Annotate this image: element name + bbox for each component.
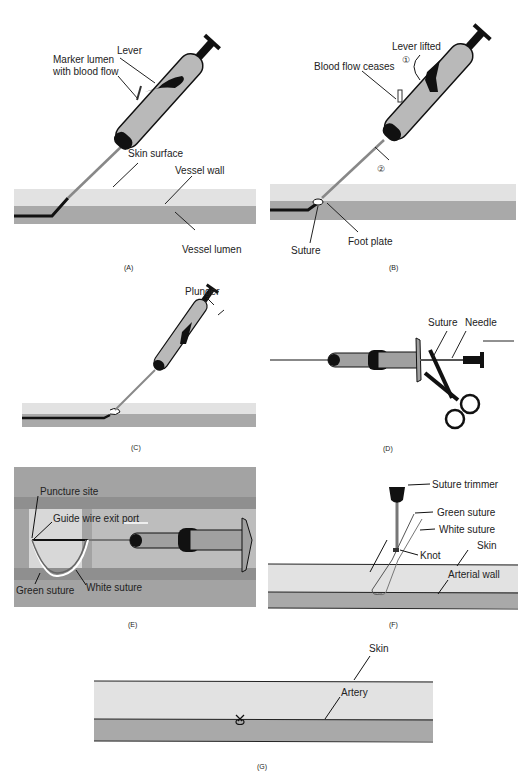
panel-d: Suture Needle (D) <box>270 317 514 453</box>
label-white-suture: White suture <box>439 524 496 535</box>
caption-c: (C) <box>131 444 141 452</box>
rotation-arrow <box>414 55 420 80</box>
label-puncture-site: Puncture site <box>40 486 99 497</box>
plunger <box>463 356 481 364</box>
label-white-suture: White suture <box>86 582 143 593</box>
label-lever: Lever <box>117 45 143 56</box>
label-artery: Artery <box>341 687 368 698</box>
suture-loop <box>313 199 323 205</box>
label-guide-wire-exit-port: Guide wire exit port <box>53 513 139 524</box>
label-suture: Suture <box>291 245 321 256</box>
arterial-layer <box>268 592 518 608</box>
vessel-lumen-layer <box>22 414 256 427</box>
label-skin: Skin <box>477 540 496 551</box>
panel-g: Skin Artery (G) <box>94 643 433 771</box>
label-vessel-lumen: Vessel lumen <box>182 244 241 255</box>
label-suture-trimmer: Suture trimmer <box>432 479 499 490</box>
label-foot-plate: Foot plate <box>348 236 393 247</box>
label-arterial-wall: Arterial wall <box>448 569 500 580</box>
step-1-marker: ① <box>402 55 410 65</box>
panel-e: Puncture site Guide wire exit port Green… <box>14 467 256 629</box>
skin-layer <box>270 184 516 201</box>
marker-port <box>398 90 402 102</box>
caption-g: (G) <box>257 763 267 771</box>
label-skin: Skin <box>369 643 388 654</box>
label-vessel-wall: Vessel wall <box>175 165 224 176</box>
label-knot: Knot <box>420 550 441 561</box>
panel-b: Lever lifted ① Blood flow ceases ② Sutur… <box>270 23 516 272</box>
label-green-suture: Green suture <box>437 507 496 518</box>
label-marker-lumen-1: Marker lumen <box>53 54 114 65</box>
panel-c: Plunger (C) <box>22 283 256 452</box>
suture-trimmer-head <box>389 487 405 503</box>
skin-layer <box>14 189 256 206</box>
skin-layer <box>22 403 256 414</box>
panel-a: Lever Marker lumen with blood flow Skin … <box>14 33 256 272</box>
caption-d: (D) <box>383 445 393 453</box>
label-lever-lifted: Lever lifted <box>392 41 441 52</box>
label-skin-surface: Skin surface <box>128 148 183 159</box>
knot <box>393 548 399 552</box>
caption-f: (F) <box>389 621 398 629</box>
caption-b: (B) <box>389 264 398 272</box>
skin-layer <box>94 681 433 719</box>
closure-device-diagram: Lever Marker lumen with blood flow Skin … <box>0 0 529 784</box>
step-2-marker: ② <box>377 164 385 174</box>
panel-f: Suture trimmer Green suture White suture… <box>268 479 518 629</box>
label-green-suture: Green suture <box>16 585 75 596</box>
label-marker-lumen-2: with blood flow <box>52 66 119 77</box>
label-needle: Needle <box>465 317 497 328</box>
label-blood-flow-ceases: Blood flow ceases <box>314 61 395 72</box>
label-suture: Suture <box>428 317 458 328</box>
artery-layer <box>94 719 433 741</box>
label-plunger: Plunger <box>185 286 220 297</box>
caption-e: (E) <box>128 621 137 629</box>
caption-a: (A) <box>124 264 133 272</box>
